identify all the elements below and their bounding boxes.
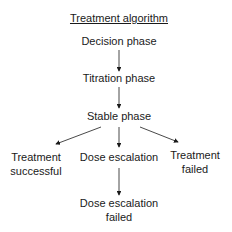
arrow-stable-success xyxy=(56,127,101,144)
arrows xyxy=(0,0,232,232)
treatment-algorithm-diagram: Treatment algorithm Decision phase Titra… xyxy=(0,0,232,232)
arrow-stable-failed xyxy=(140,127,178,142)
